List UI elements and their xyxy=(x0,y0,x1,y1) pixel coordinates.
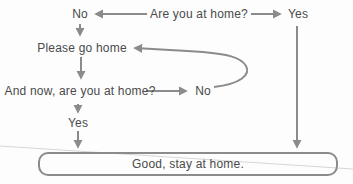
node-question-1: Are you at home? xyxy=(150,8,248,21)
node-no-1: No xyxy=(72,8,88,21)
node-action-please-go-home: Please go home xyxy=(37,42,127,55)
arrow-no2-to-action-loop xyxy=(135,48,247,87)
terminal-box: Good, stay at home. xyxy=(38,152,338,176)
node-yes-1: Yes xyxy=(288,8,308,21)
node-yes-2: Yes xyxy=(68,117,88,130)
terminal-box-label: Good, stay at home. xyxy=(132,157,244,171)
flowchart-canvas: Are you at home? No Yes Please go home A… xyxy=(0,0,353,184)
node-no-2: No xyxy=(195,85,211,98)
node-question-2: And now, are you at home? xyxy=(4,85,155,98)
